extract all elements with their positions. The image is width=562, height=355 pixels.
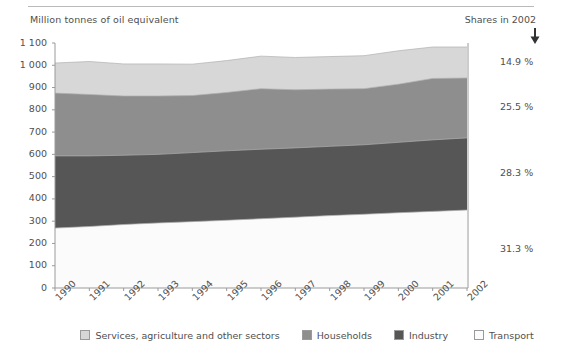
y-tick-label: 100 [3,259,47,270]
y-tick-label: 800 [3,103,47,114]
legend-swatch-households [302,330,312,340]
legend-swatch-services [80,330,90,340]
y-tick-label: 500 [3,170,47,181]
y-tick-label: 300 [3,215,47,226]
share-label-3: 31.3 % [500,243,533,254]
legend-label-services: Services, agriculture and other sectors [95,330,279,341]
legend-item-transport[interactable]: Transport [474,330,534,341]
legend-swatch-industry [394,330,404,340]
y-tick-label: 600 [3,148,47,159]
share-label-2: 28.3 % [500,167,533,178]
y-tick-label: 0 [3,282,47,293]
y-tick-label: 1 100 [3,37,47,48]
legend-item-services[interactable]: Services, agriculture and other sectors [80,330,279,341]
share-label-0: 14.9 % [500,56,533,67]
y-tick-label: 1 000 [3,59,47,70]
y-tick-label: 400 [3,192,47,203]
legend-swatch-transport [474,330,484,340]
y-tick-label: 200 [3,237,47,248]
legend-label-transport: Transport [489,330,534,341]
chart-figure: Million tonnes of oil equivalent Shares … [0,0,562,355]
legend-item-households[interactable]: Households [302,330,372,341]
y-tick-label: 900 [3,81,47,92]
legend-label-households: Households [317,330,372,341]
share-label-1: 25.5 % [500,101,533,112]
legend-item-industry[interactable]: Industry [394,330,448,341]
stacked-area-plot [0,0,562,355]
chart-legend: Services, agriculture and other sectors … [0,326,562,344]
y-tick-label: 700 [3,126,47,137]
legend-label-industry: Industry [409,330,448,341]
